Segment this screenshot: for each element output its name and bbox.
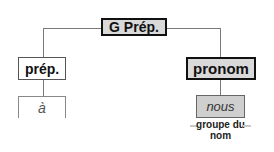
connector-pronom-to-nous bbox=[220, 80, 221, 95]
connector-root-to-pronom bbox=[220, 28, 221, 57]
connector-prep-to-a bbox=[43, 80, 44, 96]
node-prep: prép. bbox=[18, 57, 66, 80]
annotation-dash-right bbox=[243, 125, 251, 127]
annotation-groupe-du-nom: groupe du nom bbox=[196, 119, 245, 141]
node-prep-label: prép. bbox=[25, 61, 59, 77]
node-pronom-label: pronom bbox=[193, 60, 249, 77]
leaf-node-nous: nous bbox=[196, 95, 245, 118]
leaf-nous-label: nous bbox=[206, 99, 234, 114]
connector-root-to-prep bbox=[43, 28, 44, 57]
leaf-a-label: à bbox=[38, 100, 46, 116]
leaf-node-a: à bbox=[18, 96, 66, 118]
node-pronom: pronom bbox=[186, 57, 256, 80]
root-node-label: G Prép. bbox=[109, 19, 159, 35]
root-node-g-prep: G Prép. bbox=[101, 18, 167, 36]
